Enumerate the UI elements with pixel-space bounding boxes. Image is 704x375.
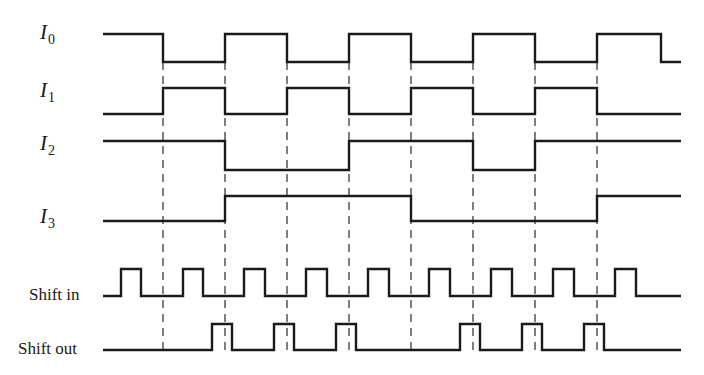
label-i2-sub: 2 bbox=[48, 143, 55, 158]
timing-diagram: I0 I1 I2 I3 Shift in Shift out bbox=[0, 0, 704, 375]
label-i1-sub: 1 bbox=[48, 90, 55, 105]
dashed-guide-lines bbox=[163, 62, 597, 350]
waveform-canvas bbox=[0, 0, 704, 375]
waveform-shift-out bbox=[103, 324, 681, 350]
label-i0-letter: I bbox=[40, 20, 47, 44]
waveform-i3 bbox=[103, 196, 681, 221]
label-i2: I2 bbox=[40, 131, 55, 159]
label-i0: I0 bbox=[40, 20, 55, 48]
label-shift-out: Shift out bbox=[18, 339, 77, 359]
label-i0-sub: 0 bbox=[48, 32, 55, 47]
waveform-i2 bbox=[103, 141, 681, 170]
waveforms bbox=[103, 34, 681, 350]
label-shift-in: Shift in bbox=[29, 285, 80, 305]
label-i1: I1 bbox=[40, 78, 55, 106]
label-i3: I3 bbox=[40, 204, 55, 232]
waveform-i0 bbox=[103, 34, 681, 62]
label-i3-letter: I bbox=[40, 204, 47, 228]
label-i1-letter: I bbox=[40, 78, 47, 102]
label-i3-sub: 3 bbox=[48, 216, 55, 231]
label-i2-letter: I bbox=[40, 131, 47, 155]
waveform-i1 bbox=[103, 88, 681, 114]
waveform-shift-in bbox=[103, 269, 681, 296]
